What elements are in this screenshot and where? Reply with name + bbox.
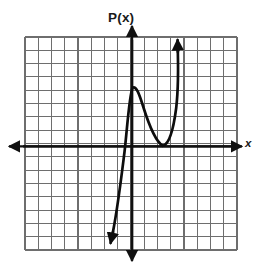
x-axis-label: x: [245, 138, 251, 150]
function-label: P(x): [108, 11, 134, 25]
graph-figure: P(x) x: [0, 0, 261, 266]
coordinate-graph-canvas: [0, 0, 261, 266]
